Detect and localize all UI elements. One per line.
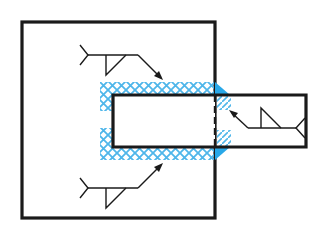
weld-diagram: Fillet weld around bar inserted through … (0, 0, 327, 237)
bar (113, 95, 306, 147)
diagram-svg (0, 0, 327, 237)
weld-symbol-right (229, 108, 305, 138)
weld-symbol-top (80, 45, 163, 80)
weld-section-hatch (217, 96, 231, 146)
weld-symbol-bottom (80, 163, 163, 208)
